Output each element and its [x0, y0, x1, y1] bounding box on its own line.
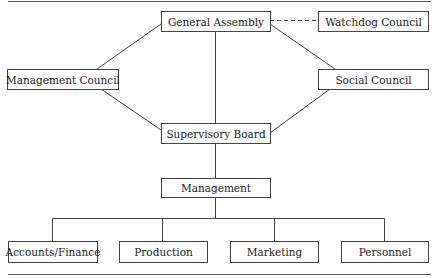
node-production: Production	[119, 241, 208, 263]
node-personnel: Personnel	[341, 241, 429, 263]
node-watchdog-council: Watchdog Council	[318, 11, 429, 32]
node-marketing: Marketing	[230, 241, 319, 263]
node-general-assembly: General Assembly	[161, 11, 271, 32]
node-supervisory-board: Supervisory Board	[161, 123, 271, 144]
link-management-council-supervisory	[101, 89, 161, 130]
link-social-council-supervisory	[270, 89, 330, 133]
node-management: Management	[161, 178, 271, 198]
node-accounts-finance: Accounts/Finance	[8, 241, 98, 263]
node-social-council: Social Council	[318, 69, 429, 90]
link-ga-management-council	[97, 24, 161, 69]
node-management-council: Management Council	[7, 69, 119, 90]
